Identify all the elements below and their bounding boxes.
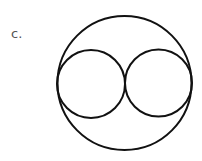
circles-diagram (0, 0, 202, 161)
inner-circle-right (125, 50, 192, 117)
inner-circle-left (57, 50, 125, 118)
